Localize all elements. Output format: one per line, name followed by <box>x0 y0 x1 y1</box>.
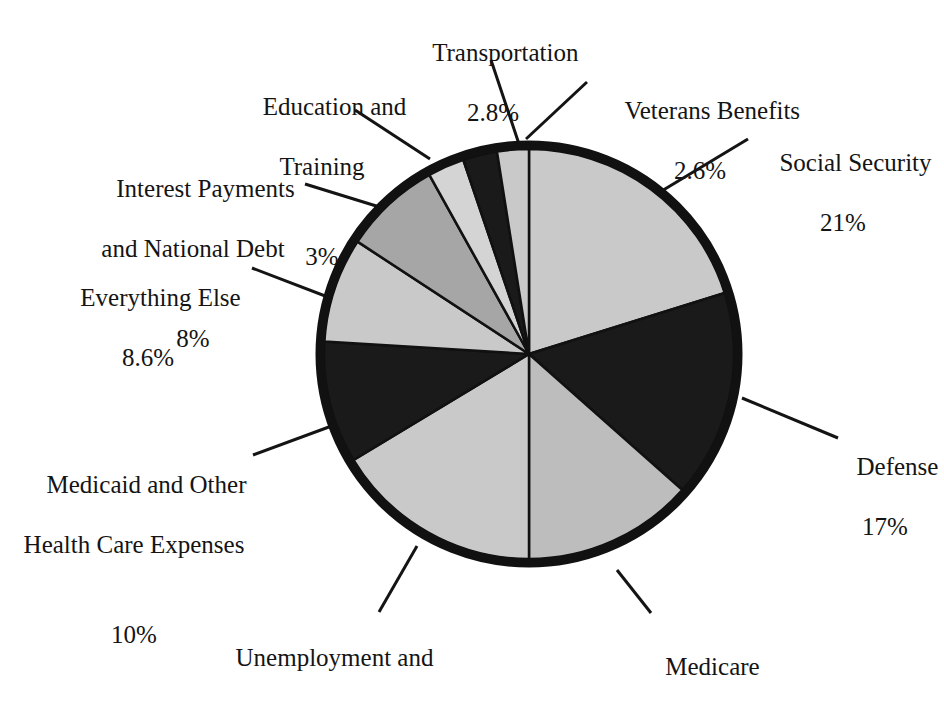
label-everything-else-name: Everything Else <box>80 284 240 311</box>
label-medicaid-line1: Medicaid and Other <box>47 471 247 498</box>
label-unemployment: Unemployment and Welfare Assistance 17% <box>198 613 446 703</box>
label-veterans-benefits: Veterans Benefits 2.6% <box>580 66 820 246</box>
label-veterans-name: Veterans Benefits <box>624 97 800 124</box>
label-medicare: Medicare 14% <box>620 622 780 703</box>
leader-line-medicare <box>617 570 651 613</box>
label-medicare-name: Medicare <box>665 653 759 680</box>
label-defense-pct: 17% <box>826 512 944 542</box>
label-transportation-name: Transportation <box>432 39 578 66</box>
leader-line-medicaid <box>253 424 337 455</box>
label-defense: Defense 17% <box>826 422 944 602</box>
leader-line-defense <box>742 398 838 438</box>
pie-chart-figure: Transportation 2.8% Education and Traini… <box>0 0 944 703</box>
label-everything-else: Everything Else 8.6% <box>53 253 243 433</box>
label-veterans-pct: 2.6% <box>580 156 820 186</box>
label-medicaid-line2: Health Care Expenses <box>14 530 254 560</box>
label-unemployment-line1: Unemployment and <box>236 644 434 671</box>
label-everything-else-pct: 8.6% <box>53 343 243 373</box>
label-education-line1: Education and <box>263 93 407 120</box>
label-interest-line1: Interest Payments <box>116 175 294 202</box>
leader-line-unemployment <box>379 546 417 612</box>
label-defense-name: Defense <box>857 453 939 480</box>
